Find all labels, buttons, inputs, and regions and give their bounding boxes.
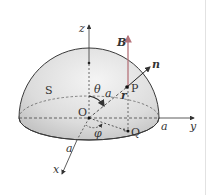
point-q xyxy=(127,130,130,133)
y-axis-label: y xyxy=(189,120,197,133)
point-q-label: Q xyxy=(131,126,140,139)
radius-y-label: a xyxy=(161,120,168,133)
z-axis-label: z xyxy=(78,22,85,35)
hemisphere-diagram: z B n S θ a P r O a y Q φ a x xyxy=(0,0,215,195)
origin-point xyxy=(87,116,90,119)
diagram-canvas: z B n S θ a P r O a y Q φ a x xyxy=(0,0,215,195)
surface-label: S xyxy=(45,84,53,97)
x-axis-label: x xyxy=(53,163,60,176)
radius-x-label: a xyxy=(66,142,73,155)
phi-label: φ xyxy=(94,127,102,140)
z-axis-top-point xyxy=(88,62,91,65)
right-border xyxy=(205,0,206,195)
point-p-label: P xyxy=(131,82,139,95)
theta-label: θ xyxy=(94,83,101,96)
radius-op-label: a xyxy=(105,87,112,100)
origin-label: O xyxy=(78,106,87,119)
normal-n-label: n xyxy=(152,58,160,71)
field-b-label: B xyxy=(116,36,126,49)
